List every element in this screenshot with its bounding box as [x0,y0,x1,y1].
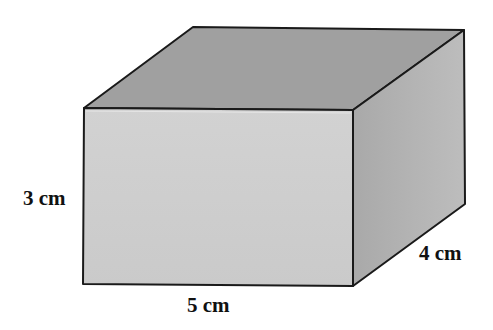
front-face [83,108,353,286]
height-label: 3 cm [23,188,66,209]
length-label: 5 cm [187,295,230,316]
width-label: 4 cm [419,243,462,264]
prism-diagram [0,0,493,330]
